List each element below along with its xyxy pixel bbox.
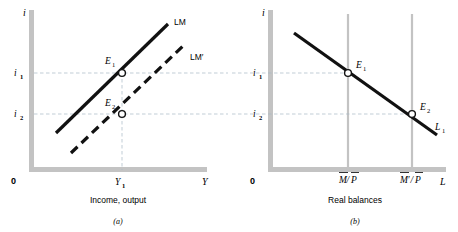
panel-b-point-label-e2-base: E bbox=[419, 102, 426, 112]
panel-b-xtick-m-over-p: M / P bbox=[338, 173, 359, 186]
panel-b-x-axis-symbol: L bbox=[439, 176, 446, 187]
panel-a-ytick-i1-sub: 1 bbox=[20, 73, 23, 80]
panel-b-xtick-slash-1: / bbox=[346, 175, 351, 185]
panel-b-point-e1 bbox=[345, 70, 352, 77]
panel-b-ytick-i1-sub: 1 bbox=[259, 73, 262, 80]
panel-b-ytick-i1-base: i bbox=[253, 68, 256, 78]
panel-b-y-axis-symbol: i bbox=[262, 7, 265, 18]
panel-b-xtick-slash-2: / bbox=[410, 175, 415, 185]
panel-a-caption: (a) bbox=[113, 217, 123, 226]
panel-b-ytick-i2: i 2 bbox=[253, 109, 262, 121]
figure-container: LM LM′ i Y 0 i 1 i 2 Y 1 E 1 E 2 Income, bbox=[0, 0, 458, 232]
panel-b-curve-l1 bbox=[294, 33, 437, 135]
panel-b-point-label-e2-sub: 2 bbox=[427, 107, 430, 114]
panel-a-x-axis-symbol: Y bbox=[202, 176, 209, 187]
panel-b-label-l1-base: L bbox=[434, 122, 440, 132]
panel-a-xtick-y1-sub: 1 bbox=[122, 182, 125, 189]
panel-a-point-label-e2: E 2 bbox=[104, 98, 115, 110]
panel-a-xtick-y1: Y 1 bbox=[115, 177, 125, 189]
panel-a-xtick-y1-base: Y bbox=[115, 177, 122, 187]
panel-b-point-label-e1-base: E bbox=[355, 60, 362, 70]
panel-a-point-label-e1-base: E bbox=[104, 56, 111, 66]
panel-a-y-axis-symbol: i bbox=[23, 7, 26, 18]
panel-a-label-lm-prime: LM′ bbox=[190, 52, 204, 62]
panel-a-ytick-i2-sub: 2 bbox=[20, 114, 23, 121]
panel-b-point-label-e1: E 1 bbox=[355, 60, 366, 72]
panel-a-x-axis-label: Income, output bbox=[90, 195, 147, 205]
panel-a-ytick-i2: i 2 bbox=[14, 109, 23, 121]
panel-b-ytick-i2-base: i bbox=[253, 109, 256, 119]
panel-a-y-axis bbox=[29, 10, 34, 172]
panel-b-point-label-e2: E 2 bbox=[419, 102, 430, 114]
panel-a-point-e2 bbox=[119, 111, 126, 118]
panel-a-point-e1 bbox=[119, 70, 126, 77]
panel-b-x-axis-label: Real balances bbox=[328, 195, 382, 205]
panel-a-ytick-i2-base: i bbox=[14, 109, 17, 119]
panel-a-origin-label: 0 bbox=[11, 176, 16, 186]
panel-b-y-axis bbox=[268, 10, 273, 172]
panel-a-x-axis bbox=[29, 167, 207, 172]
panel-b-x-axis bbox=[268, 167, 446, 172]
panel-a-point-label-e2-sub: 2 bbox=[112, 103, 115, 110]
panel-b-xtick-p-denominator-2: P bbox=[414, 175, 421, 185]
panel-b-point-label-e1-sub: 1 bbox=[363, 65, 366, 72]
panel-b-point-e2 bbox=[409, 111, 416, 118]
panel-b: L 1 i L 0 i 1 i 2 M / P M ′ / bbox=[232, 7, 446, 226]
panel-a-ytick-i1: i 1 bbox=[14, 68, 23, 80]
panel-b-xtick-p-denominator: P bbox=[350, 175, 357, 185]
panel-a: LM LM′ i Y 0 i 1 i 2 Y 1 E 1 E 2 Income, bbox=[11, 7, 228, 226]
panel-a-label-lm: LM bbox=[174, 17, 186, 27]
panel-a-ytick-i1-base: i bbox=[14, 68, 17, 78]
panel-b-ytick-i1: i 1 bbox=[253, 68, 262, 80]
panel-a-point-label-e2-base: E bbox=[104, 98, 111, 108]
panel-a-point-label-e1-sub: 1 bbox=[112, 61, 115, 68]
panel-b-xtick-m-prime-over-p: M ′ / P bbox=[399, 173, 423, 186]
panel-b-origin-label: 0 bbox=[250, 176, 255, 186]
panel-a-point-label-e1: E 1 bbox=[104, 56, 115, 68]
panel-b-caption: (b) bbox=[350, 217, 360, 226]
panel-b-label-l1-sub: 1 bbox=[442, 127, 445, 134]
panel-b-ytick-i2-sub: 2 bbox=[259, 114, 262, 121]
